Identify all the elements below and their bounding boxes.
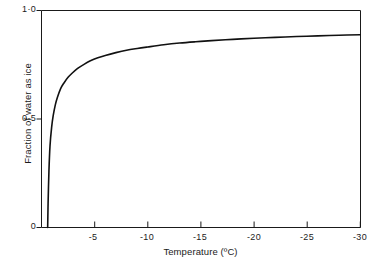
plot-area [0,0,378,266]
axes-frame [42,11,361,228]
y-axis-ticks [37,11,42,228]
ice-fraction-curve [48,35,361,228]
x-axis-ticks [95,222,361,228]
chart-figure: Fraction of water as ice Temperature (ºC… [0,0,378,266]
